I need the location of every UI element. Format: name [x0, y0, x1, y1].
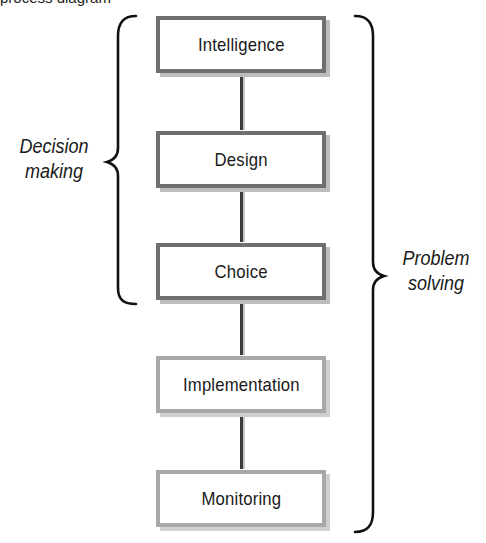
stage-intelligence: Intelligence: [156, 16, 326, 73]
stage-monitoring: Monitoring: [156, 470, 326, 527]
connector-design-choice: [240, 192, 243, 242]
stage-label: Monitoring: [201, 488, 281, 510]
decision-making-line1: Decision: [11, 134, 97, 159]
connector-implementation-monitoring: [240, 417, 243, 469]
problem-solving-brace-icon: [355, 16, 384, 532]
stage-implementation: Implementation: [156, 356, 326, 413]
decision-making-brace-icon: [107, 16, 136, 304]
stage-choice: Choice: [156, 243, 326, 300]
stage-label: Choice: [214, 261, 267, 283]
stage-label: Implementation: [183, 374, 300, 396]
problem-solving-label: Problem solving: [390, 246, 482, 296]
decision-making-label: Decision making: [6, 134, 102, 184]
connector-choice-implementation: [240, 304, 243, 355]
stage-design: Design: [156, 131, 326, 188]
decision-making-line2: making: [11, 159, 97, 184]
connector-intelligence-design: [240, 77, 243, 130]
stage-label: Design: [214, 149, 267, 171]
problem-solving-line1: Problem: [395, 246, 478, 271]
stage-label: Intelligence: [198, 34, 285, 56]
problem-solving-line2: solving: [395, 271, 478, 296]
